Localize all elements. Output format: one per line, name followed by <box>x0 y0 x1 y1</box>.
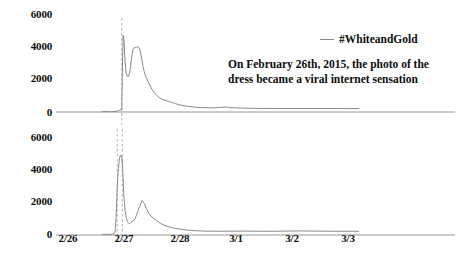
x-tick-label: 3/2 <box>285 232 298 244</box>
x-tick-label: 2/28 <box>171 232 190 244</box>
legend-whiteandgold: #WhiteandGold <box>320 33 418 45</box>
legend-label: #WhiteandGold <box>339 33 418 45</box>
data-line <box>102 155 360 234</box>
y-tick-label: 6000 <box>6 9 52 20</box>
chart-panel-whiteandgold: 6000 4000 2000 0 #WhiteandGold On Februa… <box>0 0 458 129</box>
x-axis-labels: 2/262/272/283/13/23/3 <box>0 232 458 252</box>
annotation-whiteandgold: On February 26th, 2015, the photo of the… <box>228 57 453 87</box>
figure-root: 6000 4000 2000 0 #WhiteandGold On Februa… <box>0 0 458 258</box>
y-tick-label: 2000 <box>6 73 52 84</box>
x-tick-label: 2/26 <box>59 232 78 244</box>
x-tick-label: 3/1 <box>229 232 242 244</box>
y-tick-label: 6000 <box>6 132 52 143</box>
y-tick-label: 2000 <box>6 196 52 207</box>
x-tick-label: 3/3 <box>341 232 354 244</box>
y-tick-label: 4000 <box>6 41 52 52</box>
y-axis-labels-top: 6000 4000 2000 0 <box>2 0 52 129</box>
y-tick-label: 4000 <box>6 164 52 175</box>
y-tick-label: 0 <box>6 107 52 118</box>
legend-line-icon <box>320 39 334 40</box>
x-tick-label: 2/27 <box>115 232 134 244</box>
